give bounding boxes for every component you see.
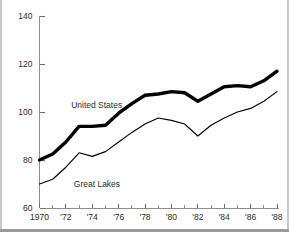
y-axis-tick-labels: 6080100120140 bbox=[18, 11, 32, 213]
data-series bbox=[40, 71, 278, 184]
x-tick-label: '76 bbox=[113, 212, 124, 222]
series-label-united-states: United States bbox=[71, 100, 122, 110]
y-tick-label: 120 bbox=[18, 59, 32, 69]
figure-left-border bbox=[0, 0, 2, 232]
x-tick-label: '72 bbox=[60, 212, 71, 222]
x-tick-label: '74 bbox=[87, 212, 98, 222]
x-axis-tick-labels: 1970'72'74'76'78'80'82'84'86'88 bbox=[30, 212, 283, 222]
y-tick-label: 80 bbox=[23, 155, 33, 165]
y-tick-label: 140 bbox=[18, 11, 32, 21]
series-label-great-lakes: Great Lakes bbox=[74, 179, 120, 189]
x-tick-label: '88 bbox=[271, 212, 282, 222]
x-tick-label: '86 bbox=[245, 212, 256, 222]
figure-right-border bbox=[287, 0, 289, 232]
x-tick-label: '82 bbox=[192, 212, 203, 222]
x-tick-label: '84 bbox=[219, 212, 230, 222]
y-tick-label: 100 bbox=[18, 107, 32, 117]
x-tick-label: 1970 bbox=[30, 212, 49, 222]
series-line-united-states bbox=[40, 71, 278, 160]
x-tick-label: '80 bbox=[166, 212, 177, 222]
figure-bottom-border bbox=[0, 229, 289, 232]
line-chart: 6080100120140 1970'72'74'76'78'80'82'84'… bbox=[0, 0, 289, 232]
chart-figure: 6080100120140 1970'72'74'76'78'80'82'84'… bbox=[0, 0, 289, 232]
x-tick-label: '78 bbox=[140, 212, 151, 222]
